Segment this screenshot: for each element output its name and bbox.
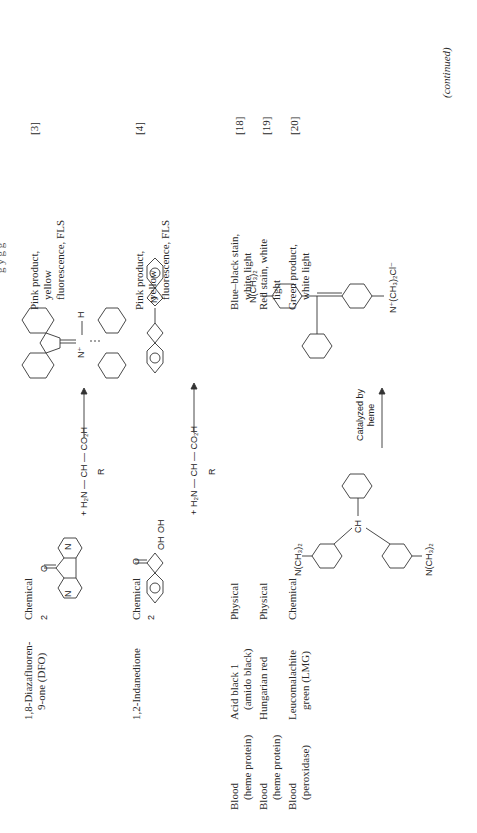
result-line: fluorescence, FLS (159, 220, 172, 310)
target-line: Blood (228, 735, 241, 810)
plus-sign: + (188, 510, 201, 515)
result-line: Pink product, (28, 220, 41, 310)
rotated-table-page: g y g g 1,8-Diazafluoren- 9-one (DFO) Ch… (0, 0, 477, 833)
lmg-structure (300, 428, 430, 588)
side-chain-r: R (95, 469, 108, 476)
reaction-arrow-icon (80, 388, 90, 438)
malachite-green-structure (250, 198, 400, 378)
result-dfo: Pink product, yellow fluorescence, FLS (28, 220, 67, 310)
arrow-label-line: heme (366, 389, 377, 441)
reference-hungarian-red: [19] (260, 117, 273, 135)
result-line: yellow (146, 220, 159, 310)
result-line: yellow (41, 220, 54, 310)
plus-sign: + (78, 511, 91, 516)
side-chain-r: R (206, 469, 219, 476)
reagent-line: 9-one (DFO) (35, 642, 48, 721)
reagent-line: Acid black 1 (228, 649, 241, 720)
type-hungarian-red: Physical (257, 583, 270, 620)
indanedione-oh2: OH (155, 520, 168, 534)
arrow-label-line: Catalyzed by (355, 389, 366, 441)
reagent-line: 1,8-Diazafluoren- (22, 642, 35, 721)
target-line: (heme protein) (241, 735, 254, 810)
indanedione-oxygen: O (130, 558, 143, 565)
reagent-lmg: Leucomalachite green (LMG) (286, 650, 312, 720)
reagent-indanedione: 1,2-Indanedione (130, 648, 143, 720)
stoich-coefficient: 2 (38, 615, 51, 620)
result-line: Blue–black stain, (228, 234, 241, 310)
mg-nme2: N(CH₃)₂ (247, 270, 260, 303)
result-lmg: Green product, white light (286, 244, 312, 310)
reagent-dfo: 1,8-Diazafluoren- 9-one (DFO) (22, 642, 48, 721)
reagent-acid-black: Acid black 1 (amido black) (228, 649, 254, 720)
target-line: Blood (257, 735, 270, 810)
reference-acid-black: [18] (233, 117, 246, 135)
stoich-coefficient: 2 (145, 615, 158, 620)
catalyzed-by-heme-label: Catalyzed by heme (355, 389, 377, 441)
target-hungarian-red: Blood (heme protein) (257, 735, 283, 810)
reagent-line: green (LMG) (299, 650, 312, 720)
result-line: fluorescence, FLS (54, 220, 67, 310)
reaction-arrow-icon (190, 383, 200, 433)
reagent-hungarian-red: Hungarian red (257, 657, 270, 720)
dfo-structure (14, 528, 94, 608)
target-acid-black: Blood (heme protein) (228, 735, 254, 810)
dfo-oxygen: O (38, 565, 51, 572)
reference-indanedione: [4] (133, 122, 146, 135)
type-acid-black: Physical (228, 583, 241, 620)
type-lmg: Chemical (286, 578, 299, 620)
continued-label: (continued) (440, 47, 453, 98)
reaction-arrow-icon (378, 388, 388, 448)
reference-dfo: [3] (28, 122, 41, 135)
target-line: (peroxidase) (299, 745, 312, 810)
amino-acid: H₂N — CH — CO₂H (78, 427, 91, 508)
reagent-line: Leucomalachite (286, 650, 299, 720)
mg-nplus: N⁺(CH₃)₂Cl⁻ (387, 262, 400, 313)
result-line: Pink product, (133, 220, 146, 310)
lmg-nme2-top: N(CH₃)₂ (292, 543, 305, 576)
target-lmg: Blood (peroxidase) (286, 745, 312, 810)
dfo-n1: N (62, 591, 75, 598)
target-line: Blood (286, 745, 299, 810)
lmg-ch: CH (352, 520, 365, 533)
product-n-plus: N⁺ (75, 347, 88, 358)
running-header-fragment: g y g g (0, 3, 7, 273)
reference-lmg: [20] (288, 117, 301, 135)
product-h: H (75, 312, 88, 319)
result-indanedione: Pink product, yellow fluorescence, FLS (133, 220, 172, 310)
result-line: Green product, (286, 244, 299, 310)
target-line: (heme protein) (270, 735, 283, 810)
result-line: white light (299, 244, 312, 310)
reagent-line: (amido black) (241, 649, 254, 720)
amino-acid: H₂N — CH — CO₂H (188, 426, 201, 507)
indanedione-oh1: OH (155, 537, 168, 551)
dfo-n2: N (62, 544, 75, 551)
lmg-nme2-bottom: N(CH₃)₂ (423, 543, 436, 576)
